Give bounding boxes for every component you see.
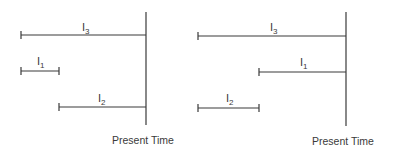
label-i1-left: I1 <box>37 55 45 70</box>
present-time-label-left: Present Time <box>112 134 174 146</box>
interval-diagrams: I3 I1 I2 Present Time I3 I1 I2 Present T… <box>0 0 400 154</box>
label-i3-left: I3 <box>82 21 90 36</box>
present-time-label-right: Present Time <box>312 135 374 147</box>
label-i3-right: I3 <box>270 21 278 36</box>
label-i2-left: I2 <box>98 92 106 107</box>
label-i1-right: I1 <box>300 56 308 71</box>
label-i2-right: I2 <box>226 92 234 107</box>
